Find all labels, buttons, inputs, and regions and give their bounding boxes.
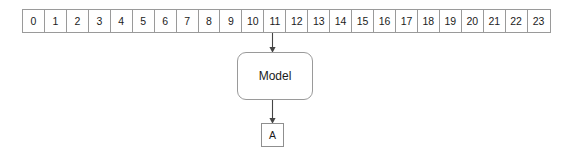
token-index-strip: 0 1 2 3 4 5 6 7 8 9 10 11 12 13 14 15 16… — [22, 9, 551, 33]
token-cell-highlighted[interactable]: 11 — [264, 10, 286, 32]
token-cell[interactable]: 13 — [308, 10, 330, 32]
token-cell[interactable]: 0 — [23, 10, 45, 32]
model-box[interactable]: Model — [237, 52, 313, 100]
token-cell[interactable]: 14 — [330, 10, 352, 32]
token-cell[interactable]: 16 — [374, 10, 396, 32]
model-box-label: Model — [259, 69, 292, 83]
token-cell[interactable]: 10 — [242, 10, 264, 32]
token-cell[interactable]: 21 — [484, 10, 506, 32]
token-cell[interactable]: 20 — [462, 10, 484, 32]
token-cell[interactable]: 7 — [177, 10, 199, 32]
token-cell[interactable]: 12 — [286, 10, 308, 32]
token-cell[interactable]: 19 — [440, 10, 462, 32]
token-cell[interactable]: 15 — [352, 10, 374, 32]
output-box[interactable]: A — [261, 123, 284, 147]
token-cell[interactable]: 3 — [89, 10, 111, 32]
token-cell[interactable]: 4 — [111, 10, 133, 32]
token-cell[interactable]: 6 — [155, 10, 177, 32]
token-cell[interactable]: 9 — [220, 10, 242, 32]
token-cell[interactable]: 23 — [528, 10, 550, 32]
token-cell[interactable]: 2 — [67, 10, 89, 32]
diagram-canvas: 0 1 2 3 4 5 6 7 8 9 10 11 12 13 14 15 16… — [0, 0, 571, 155]
token-cell[interactable]: 22 — [506, 10, 528, 32]
token-cell[interactable]: 1 — [45, 10, 67, 32]
token-cell[interactable]: 5 — [133, 10, 155, 32]
token-cell[interactable]: 17 — [396, 10, 418, 32]
token-cell[interactable]: 8 — [199, 10, 221, 32]
token-cell[interactable]: 18 — [418, 10, 440, 32]
output-box-label: A — [269, 129, 276, 141]
